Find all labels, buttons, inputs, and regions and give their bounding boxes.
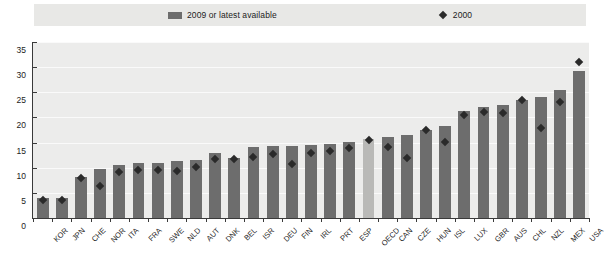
y-tick-label: 25 [17, 95, 26, 105]
x-tick-mark [474, 218, 475, 222]
chart-legend: 2009 or latest available 2000 [34, 4, 586, 26]
x-tick-mark [244, 218, 245, 222]
x-tick-label: CHE [90, 226, 108, 244]
y-tick-label: 0 [21, 221, 26, 231]
plot-area [32, 42, 589, 219]
x-tick-mark [263, 218, 264, 222]
legend-entry-points: 2000 [440, 10, 472, 20]
x-tick-label: ISL [453, 226, 467, 240]
x-tick-label: CAN [396, 226, 414, 244]
x-tick-mark [167, 218, 168, 222]
y-axis-labels: 05101520253035 [0, 42, 26, 218]
x-tick-label: DEU [281, 226, 299, 244]
legend-bar-swatch-icon [168, 12, 182, 19]
x-tick-label: PRT [339, 226, 356, 243]
legend-point-label: 2000 [453, 10, 472, 20]
x-tick-mark [455, 218, 456, 222]
x-tick-label: NLD [185, 226, 202, 243]
x-tick-label: USA [588, 226, 604, 243]
chart-root: 2009 or latest available 2000 0510152025… [0, 0, 604, 264]
x-tick-mark [148, 218, 149, 222]
y-tick-label: 15 [17, 146, 26, 156]
x-tick-label: GBR [492, 226, 510, 244]
x-axis-ticks [33, 42, 589, 218]
x-tick-label: KOR [51, 226, 69, 244]
x-tick-mark [359, 218, 360, 222]
x-tick-mark [110, 218, 111, 222]
x-tick-label: ISR [261, 226, 276, 241]
x-tick-mark [436, 218, 437, 222]
x-tick-label: NZL [549, 226, 566, 243]
x-tick-mark [551, 218, 552, 222]
x-tick-mark [52, 218, 53, 222]
x-tick-mark [225, 218, 226, 222]
x-tick-label: LUX [473, 226, 490, 243]
x-tick-mark [91, 218, 92, 222]
legend-bar-label: 2009 or latest available [187, 10, 277, 20]
x-tick-mark [301, 218, 302, 222]
x-tick-label: IRL [318, 226, 333, 241]
x-tick-label: SWE [167, 226, 186, 245]
x-tick-mark [493, 218, 494, 222]
x-tick-mark [206, 218, 207, 222]
legend-entry-bars: 2009 or latest available [168, 10, 277, 20]
x-tick-label: NOR [109, 226, 127, 244]
y-tick-label: 5 [21, 196, 26, 206]
x-tick-mark [282, 218, 283, 222]
x-tick-label: CZE [415, 226, 432, 243]
x-tick-mark [186, 218, 187, 222]
x-tick-label: MEX [569, 226, 587, 244]
x-tick-mark [512, 218, 513, 222]
x-tick-mark [570, 218, 571, 222]
x-tick-mark [416, 218, 417, 222]
x-tick-label: AUS [511, 226, 528, 243]
x-tick-mark [129, 218, 130, 222]
y-tick-label: 10 [17, 171, 26, 181]
y-tick-label: 30 [17, 70, 26, 80]
x-tick-label: DNK [224, 226, 242, 244]
x-tick-mark [71, 218, 72, 222]
x-tick-label: ESP [358, 226, 375, 243]
x-tick-mark [531, 218, 532, 222]
x-tick-mark [321, 218, 322, 222]
x-tick-label: AUT [204, 226, 221, 243]
x-tick-mark [33, 218, 34, 222]
x-tick-mark [340, 218, 341, 222]
y-tick-label: 35 [17, 45, 26, 55]
x-tick-label: FRA [147, 226, 164, 243]
x-tick-label: HUN [435, 226, 453, 244]
x-tick-mark [378, 218, 379, 222]
x-tick-label: BEL [243, 226, 260, 243]
x-tick-label: CHL [530, 226, 547, 243]
x-tick-label: FIN [299, 226, 314, 241]
x-tick-label: ITA [127, 226, 141, 240]
x-tick-mark [397, 218, 398, 222]
x-tick-mark [589, 218, 590, 222]
plot-wrapper: 05101520253035 KORJPNCHENORITAFRASWENLDA… [0, 34, 604, 230]
legend-diamond-icon [439, 11, 447, 19]
x-axis-labels: KORJPNCHENORITAFRASWENLDAUTDNKBELISRDEUF… [32, 226, 588, 264]
y-tick-label: 20 [17, 120, 26, 130]
x-tick-label: JPN [70, 226, 87, 243]
